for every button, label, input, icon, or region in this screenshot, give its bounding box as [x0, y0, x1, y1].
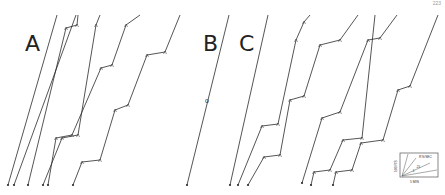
trace-start-marker	[301, 182, 303, 184]
figure: 223 A B C o R'S/SEC .25 .1 5 MIN 100 R'S	[0, 0, 445, 195]
trace-start-marker	[27, 184, 29, 186]
trace-A4	[43, 15, 100, 185]
trace-start-marker	[47, 184, 49, 186]
trace-start-marker	[237, 184, 239, 186]
trace-C4	[302, 15, 397, 183]
trace-start-marker	[229, 184, 231, 186]
trace-A6	[73, 15, 180, 185]
trace-start-marker	[186, 184, 188, 186]
trace-A5	[48, 15, 140, 185]
trace-start-marker	[42, 184, 44, 186]
trace-C6	[333, 15, 438, 185]
trace-start-marker	[7, 184, 9, 186]
trace-C3	[248, 15, 358, 185]
trace-C5	[311, 15, 375, 185]
cumulative-record-traces	[0, 0, 445, 195]
trace-start-marker	[72, 184, 74, 186]
trace-start-marker	[332, 184, 334, 186]
trace-start-marker	[247, 184, 249, 186]
trace-A1	[8, 15, 57, 185]
trace-start-marker	[310, 184, 312, 186]
trace-A2	[14, 15, 76, 185]
trace-B1	[187, 15, 229, 185]
trace-start-marker	[13, 184, 15, 186]
